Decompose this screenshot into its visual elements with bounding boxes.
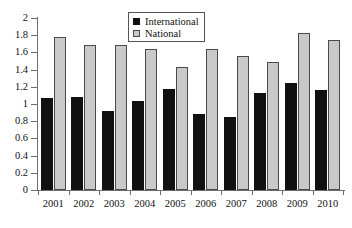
- bar-group-2008: [254, 18, 279, 190]
- bar-national-2006: [206, 49, 218, 190]
- legend-label-national: National: [145, 28, 181, 39]
- bar-international-2010: [315, 90, 327, 190]
- bar-international-2009: [285, 83, 297, 191]
- bar-international-2002: [71, 97, 83, 190]
- x-axis-tick: [99, 190, 100, 195]
- y-axis-tick: [31, 70, 37, 71]
- bar-group-2004: [132, 18, 157, 190]
- bar-national-2001: [54, 37, 66, 190]
- bar-international-2004: [132, 101, 144, 190]
- y-axis-tick-label-text: 1.2: [0, 82, 28, 92]
- legend-item-national: National: [133, 27, 199, 39]
- y-axis-tick-label: 1.6: [0, 47, 28, 57]
- bar-international-2005: [163, 89, 175, 190]
- y-axis-tick-label-text: 0.2: [0, 168, 28, 178]
- bar-chart: 21.81.61.41.210.80.60.40.20 200120022003…: [0, 0, 352, 228]
- y-axis-tick-label: 1.2: [0, 82, 28, 92]
- bar-national-2003: [115, 45, 127, 190]
- y-axis-tick: [31, 138, 37, 139]
- x-axis-tick: [191, 190, 192, 195]
- bar-group-2005: [163, 18, 188, 190]
- bar-national-2009: [298, 33, 310, 190]
- y-axis-tick-label: 0.6: [0, 133, 28, 143]
- x-axis-tick: [221, 190, 222, 195]
- x-axis-tick-origin: [38, 190, 39, 195]
- bar-international-2006: [193, 114, 205, 190]
- bar-international-2003: [102, 111, 114, 190]
- legend-item-international: International: [133, 15, 199, 27]
- bar-group-2002: [71, 18, 96, 190]
- bar-group-2001: [41, 18, 66, 190]
- y-axis-tick-label: 1.4: [0, 65, 28, 75]
- y-axis-tick-label: 0: [0, 185, 28, 195]
- legend-label-international: International: [145, 16, 199, 27]
- y-axis-tick-label: 0.4: [0, 151, 28, 161]
- y-axis-tick-label-text: 0.6: [0, 133, 28, 143]
- y-axis-tick-label-text: 2: [0, 13, 28, 23]
- y-axis-tick-label-text: 0: [0, 185, 28, 195]
- x-axis-tick: [130, 190, 131, 195]
- bar-group-2010: [315, 18, 340, 190]
- bar-group-2007: [224, 18, 249, 190]
- x-axis-tick: [69, 190, 70, 195]
- bar-national-2010: [328, 40, 340, 191]
- y-axis-tick: [31, 35, 37, 36]
- y-axis-tick: [31, 87, 37, 88]
- y-axis-tick-label: 1: [0, 99, 28, 109]
- gray-square-icon: [133, 30, 140, 37]
- bar-national-2002: [84, 45, 96, 190]
- bar-international-2008: [254, 93, 266, 190]
- bar-international-2007: [224, 117, 236, 190]
- bar-national-2005: [176, 67, 188, 190]
- y-axis-tick-label-text: 0.8: [0, 116, 28, 126]
- x-axis-tick-label-2010: 2010: [308, 198, 348, 210]
- x-axis-tick: [282, 190, 283, 195]
- bar-group-2009: [285, 18, 310, 190]
- y-axis-tick-label-text: 1.4: [0, 65, 28, 75]
- y-axis-tick-label: 1.8: [0, 30, 28, 40]
- y-axis-tick-label: 2: [0, 13, 28, 23]
- x-axis-tick: [160, 190, 161, 195]
- y-axis-tick-label: 0.2: [0, 168, 28, 178]
- y-axis-tick: [31, 190, 37, 191]
- bar-group-2003: [102, 18, 127, 190]
- y-axis-tick: [31, 104, 37, 105]
- y-axis-tick: [31, 121, 37, 122]
- y-axis-tick-label-text: 1.8: [0, 30, 28, 40]
- y-axis-tick-label-text: 0.4: [0, 151, 28, 161]
- bar-national-2007: [237, 56, 249, 190]
- plot-area: [38, 18, 343, 190]
- x-axis-tick: [343, 190, 344, 195]
- y-axis-tick: [31, 156, 37, 157]
- y-axis-tick: [31, 173, 37, 174]
- bar-international-2001: [41, 98, 53, 190]
- bar-group-2006: [193, 18, 218, 190]
- y-axis-tick-label: 0.8: [0, 116, 28, 126]
- y-axis-tick: [31, 52, 37, 53]
- y-axis-tick: [31, 18, 37, 19]
- y-axis-tick-label-text: 1.6: [0, 47, 28, 57]
- bar-national-2004: [145, 49, 157, 190]
- x-axis-tick: [313, 190, 314, 195]
- chart-legend: International National: [128, 12, 205, 42]
- bar-national-2008: [267, 62, 279, 190]
- y-axis-tick-label-text: 1: [0, 99, 28, 109]
- black-square-icon: [133, 18, 140, 25]
- x-axis-tick: [252, 190, 253, 195]
